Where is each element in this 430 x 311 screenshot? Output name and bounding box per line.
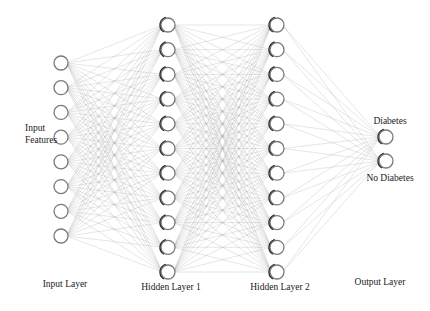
- connection-edge: [283, 137, 381, 198]
- neuron-hidden1-6: [160, 141, 175, 155]
- neuron-input-6: [54, 180, 68, 194]
- connection-edge: [283, 161, 381, 223]
- neuron-circle: [270, 265, 284, 279]
- neuron-circle: [270, 240, 284, 254]
- neuron-circle: [161, 265, 175, 279]
- output-label-no-diabetes: No Diabetes: [366, 173, 414, 183]
- neuron-circle: [161, 191, 175, 205]
- neuron-input-7: [54, 204, 68, 218]
- neuron-hidden2-7: [269, 166, 284, 180]
- neuron-circle: [270, 18, 284, 32]
- neuron-circle: [54, 229, 68, 243]
- connection-edge: [67, 25, 163, 112]
- connection-edge: [67, 25, 163, 162]
- neuron-circle: [54, 180, 68, 194]
- neuron-hidden1-8: [160, 191, 175, 205]
- input-features-label-line1: Input: [25, 123, 45, 133]
- connection-edge: [67, 198, 163, 236]
- neuron-circle: [379, 130, 393, 144]
- neuron-circle: [54, 155, 68, 169]
- neuron-circle: [161, 142, 175, 156]
- connection-edge: [67, 149, 163, 237]
- neuron-circle: [54, 105, 68, 119]
- neuron-hidden2-6: [269, 141, 284, 155]
- neuron-circle: [161, 166, 175, 180]
- neuron-hidden1-7: [160, 166, 175, 180]
- neuron-circle: [54, 56, 68, 70]
- input-features-label-line2: Features: [25, 135, 57, 145]
- neuron-circle: [161, 216, 175, 230]
- connection-edge: [283, 50, 381, 137]
- neuron-hidden2-9: [269, 216, 284, 230]
- connection-edge: [283, 74, 381, 161]
- neuron-input-5: [54, 155, 68, 169]
- neuron-hidden2-8: [269, 191, 284, 205]
- neuron-circle: [161, 67, 175, 81]
- neuron-circle: [161, 240, 175, 254]
- connection-edge: [283, 50, 381, 161]
- neuron-circle: [54, 81, 68, 95]
- neuron-input-3: [54, 105, 68, 119]
- neuron-hidden1-9: [160, 216, 175, 230]
- neuron-circle: [161, 92, 175, 106]
- neuron-hidden1-11: [160, 265, 175, 279]
- connection-edge: [283, 25, 381, 161]
- neuron-circle: [270, 191, 284, 205]
- neuron-circle: [161, 18, 175, 32]
- neuron-circle: [270, 67, 284, 81]
- connection-edge: [67, 223, 163, 236]
- connection-edge: [67, 25, 163, 211]
- neuron-hidden2-1: [269, 18, 284, 32]
- neuron-input-2: [54, 81, 68, 95]
- neuron-circle: [379, 154, 393, 168]
- connection-edge: [283, 99, 381, 161]
- neuron-circle: [270, 142, 284, 156]
- neuron-hidden1-5: [160, 117, 175, 131]
- connection-edge: [67, 25, 163, 137]
- layer-label-output: Output Layer: [355, 277, 407, 287]
- connection-edge: [283, 25, 381, 137]
- connection-edge: [283, 74, 381, 137]
- connection-edge: [283, 137, 381, 149]
- neuron-hidden1-2: [160, 43, 175, 57]
- neuron-circle: [270, 92, 284, 106]
- neuron-hidden2-10: [269, 240, 284, 254]
- neuron-input-8: [54, 229, 68, 243]
- neuron-hidden1-1: [160, 18, 175, 32]
- connection-edge: [67, 236, 163, 247]
- connection-edge: [67, 25, 163, 63]
- layer-label-input: Input Layer: [43, 279, 88, 289]
- neuron-hidden2-2: [269, 43, 284, 57]
- neuron-hidden1-3: [160, 67, 175, 81]
- connection-edge: [283, 161, 381, 173]
- connection-edge: [283, 149, 381, 162]
- neuron-circle: [270, 216, 284, 230]
- output-label-diabetes: Diabetes: [373, 116, 407, 126]
- neuron-circle: [161, 117, 175, 131]
- neuron-circle: [270, 117, 284, 131]
- connections: [67, 25, 381, 272]
- connection-edge: [67, 74, 163, 236]
- neuron-circle: [54, 204, 68, 218]
- neuron-hidden2-3: [269, 67, 284, 81]
- neuron-circle: [270, 43, 284, 57]
- neuron-input-1: [54, 56, 68, 70]
- neuron-hidden2-11: [269, 265, 284, 279]
- neuron-hidden2-5: [269, 117, 284, 131]
- connection-edge: [283, 99, 381, 137]
- neuron-output-1: [378, 130, 393, 144]
- neuron-hidden2-4: [269, 92, 284, 106]
- neuron-circle: [270, 166, 284, 180]
- network-canvas: Input Features Diabetes No Diabetes Inpu…: [0, 0, 430, 311]
- connection-edge: [67, 25, 163, 187]
- connection-edge: [283, 137, 381, 272]
- connection-edge: [283, 124, 381, 137]
- connection-edge: [67, 99, 163, 236]
- neuron-hidden1-4: [160, 92, 175, 106]
- layer-label-hidden-2: Hidden Layer 2: [250, 282, 310, 292]
- neuron-output-2: [378, 154, 393, 168]
- neuron-circle: [161, 43, 175, 57]
- neuron-hidden1-10: [160, 240, 175, 254]
- layer-label-hidden-1: Hidden Layer 1: [141, 282, 201, 292]
- neural-network-diagram: Input Features Diabetes No Diabetes Inpu…: [0, 0, 430, 311]
